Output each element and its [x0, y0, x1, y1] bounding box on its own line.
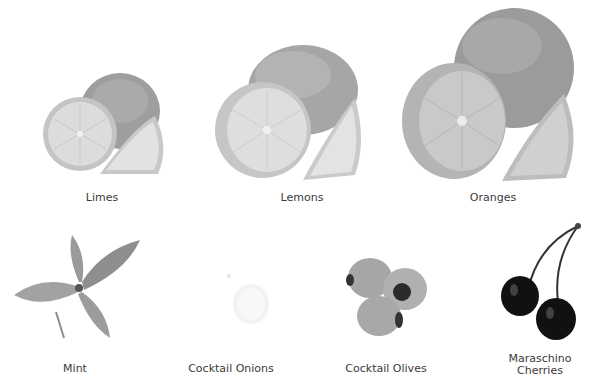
- maraschino-cherries-label: Maraschino Cherries: [508, 353, 571, 377]
- lemons-image: [215, 40, 365, 185]
- maraschino-label-line2: Cherries: [508, 365, 571, 377]
- cocktail-olives-image: [344, 258, 434, 338]
- mint-image: [12, 230, 142, 348]
- oranges-image: [402, 6, 582, 186]
- cocktail-onions-image: [225, 270, 285, 330]
- lemons-label: Lemons: [281, 192, 324, 204]
- cocktail-olives-label: Cocktail Olives: [345, 363, 426, 375]
- limes-label: Limes: [86, 192, 118, 204]
- limes-image: [40, 66, 170, 186]
- cocktail-onions-label: Cocktail Onions: [188, 363, 274, 375]
- mint-label: Mint: [63, 363, 87, 375]
- maraschino-cherries-image: [498, 220, 583, 342]
- oranges-label: Oranges: [470, 192, 516, 204]
